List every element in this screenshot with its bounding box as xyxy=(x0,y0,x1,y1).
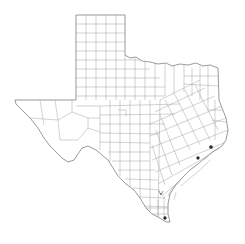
map-marker[interactable] xyxy=(164,217,167,220)
map-marker[interactable] xyxy=(197,157,200,160)
texas-outline xyxy=(15,15,228,222)
map-marker[interactable] xyxy=(209,145,212,148)
texas-county-map xyxy=(0,0,245,244)
